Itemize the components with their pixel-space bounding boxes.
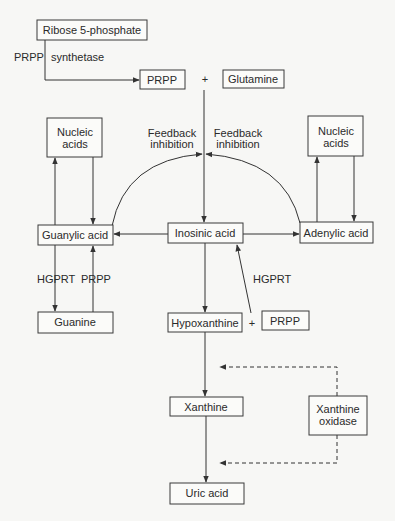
svg-text:oxidase: oxidase <box>319 415 357 427</box>
node-xanthine: Xanthine <box>170 397 243 416</box>
node-guanine: Guanine <box>38 312 113 333</box>
node-adenylic-acid: Adenylic acid <box>300 222 373 243</box>
purine-pathway-diagram: PRPP synthetase Feedback inhibition Feed… <box>0 0 395 521</box>
svg-text:Guanylic acid: Guanylic acid <box>42 229 108 241</box>
label-prpp-left: PRPP <box>81 273 111 285</box>
svg-text:PRPP: PRPP <box>147 74 177 86</box>
plus-sign-mid: + <box>249 317 255 329</box>
svg-text:Hypoxanthine: Hypoxanthine <box>171 317 238 329</box>
svg-text:Adenylic acid: Adenylic acid <box>304 227 369 239</box>
label-feedback-right-2: inhibition <box>216 138 259 150</box>
node-guanylic-acid: Guanylic acid <box>38 225 113 245</box>
svg-text:Nucleic: Nucleic <box>318 125 355 137</box>
feedback-arc-adenylic <box>206 154 300 223</box>
feedback-arc-guanylic <box>112 154 202 226</box>
node-hypoxanthine: Hypoxanthine <box>168 313 242 332</box>
node-prpp-top: PRPP <box>140 70 185 89</box>
node-nucleic-acids-right: Nucleic acids <box>308 116 363 156</box>
label-prpp-synthetase-a: PRPP <box>14 51 44 63</box>
label-hgprt-left: HGPRT <box>37 273 76 285</box>
svg-text:Guanine: Guanine <box>54 316 96 328</box>
label-hgprt-mid: HGPRT <box>253 273 292 285</box>
arrow-hgprt-to-inosinic <box>237 245 251 313</box>
svg-text:PRPP: PRPP <box>270 315 300 327</box>
svg-text:Nucleic: Nucleic <box>57 126 94 138</box>
svg-text:Xanthine: Xanthine <box>316 403 359 415</box>
node-glutamine: Glutamine <box>223 70 284 88</box>
svg-text:Inosinic acid: Inosinic acid <box>175 227 236 239</box>
label-prpp-synthetase-b: synthetase <box>51 51 104 63</box>
node-prpp-mid: PRPP <box>262 311 309 330</box>
svg-text:Ribose 5-phosphate: Ribose 5-phosphate <box>43 24 141 36</box>
dashed-xo-to-step1 <box>220 367 337 396</box>
plus-sign-top: + <box>202 73 208 85</box>
svg-text:acids: acids <box>62 138 88 150</box>
node-inosinic-acid: Inosinic acid <box>168 223 243 243</box>
node-nucleic-acids-left: Nucleic acids <box>47 118 102 157</box>
svg-text:Glutamine: Glutamine <box>228 73 278 85</box>
node-ribose-5-phosphate: Ribose 5-phosphate <box>37 20 147 40</box>
svg-text:Uric acid: Uric acid <box>186 487 229 499</box>
node-uric-acid: Uric acid <box>170 483 244 504</box>
dashed-xo-to-step2 <box>220 435 337 463</box>
svg-text:acids: acids <box>323 137 349 149</box>
svg-text:Xanthine: Xanthine <box>184 401 227 413</box>
node-xanthine-oxidase: Xanthine oxidase <box>309 396 367 435</box>
label-feedback-left-2: inhibition <box>150 138 193 150</box>
